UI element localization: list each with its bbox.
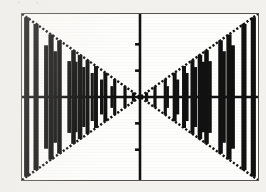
plot-canvas [22, 14, 258, 180]
plot-graphics [22, 14, 258, 180]
figure-root: · · [0, 0, 266, 192]
plot-frame [21, 13, 259, 181]
clipped-caption-above-figure: · · [17, 0, 77, 6]
